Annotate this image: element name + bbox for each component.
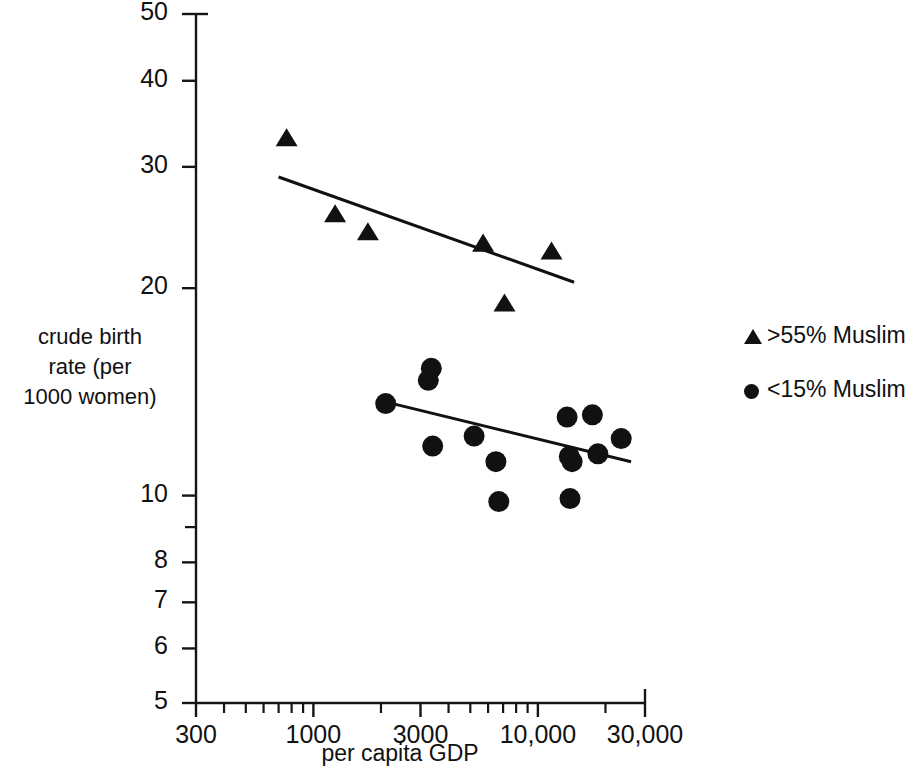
data-point-circle-6	[488, 491, 509, 512]
data-point-circle-10	[562, 451, 583, 472]
data-point-circle-8	[582, 404, 603, 425]
y-tick-label-50: 50	[86, 0, 168, 26]
data-point-circle-12	[587, 443, 608, 464]
y-axis-title: crude birth rate (per 1000 women)	[4, 322, 176, 412]
data-point-triangle-5	[494, 293, 516, 311]
x-axis-title: per capita GDP	[250, 740, 550, 767]
y-tick-label-40: 40	[86, 64, 168, 93]
data-point-circle-0	[375, 393, 396, 414]
data-point-triangle-4	[541, 242, 563, 260]
y-tick-label-20: 20	[86, 271, 168, 300]
scatter-chart-figure: 504030201087653001000300010,00030,000 cr…	[0, 0, 912, 776]
data-point-circle-5	[485, 451, 506, 472]
data-point-circle-7	[557, 407, 578, 428]
y-tick-label-8: 8	[86, 545, 168, 574]
data-point-circle-4	[464, 426, 485, 447]
legend-item-muslim-low: <15% Muslim	[742, 376, 906, 403]
data-points	[276, 128, 632, 512]
y-axis-title-line-2: rate (per	[4, 352, 176, 382]
axes-lines	[196, 14, 645, 703]
data-point-triangle-3	[472, 234, 494, 252]
triangle-marker-icon	[742, 325, 764, 347]
data-point-circle-13	[611, 428, 632, 449]
x-tick-label-30,000: 30,000	[575, 720, 715, 749]
data-point-circle-3	[422, 436, 443, 457]
y-axis-title-line-3: 1000 women)	[4, 382, 176, 412]
y-tick-label-6: 6	[86, 631, 168, 660]
data-point-triangle-2	[357, 222, 379, 240]
circle-marker-icon	[742, 379, 764, 401]
legend-label-muslim-low: <15% Muslim	[767, 376, 906, 403]
data-point-triangle-0	[276, 128, 298, 146]
y-tick-label-10: 10	[86, 479, 168, 508]
data-point-triangle-1	[324, 204, 346, 222]
axis-ticks	[182, 14, 645, 717]
data-point-circle-2	[418, 370, 439, 391]
y-tick-label-7: 7	[86, 585, 168, 614]
legend-label-muslim-high: >55% Muslim	[767, 322, 906, 349]
y-axis-title-line-1: crude birth	[4, 322, 176, 352]
y-tick-label-5: 5	[86, 686, 168, 715]
legend-item-muslim-high: >55% Muslim	[742, 322, 906, 349]
data-point-circle-11	[560, 488, 581, 509]
y-tick-label-30: 30	[86, 150, 168, 179]
trendline-series-0	[279, 177, 575, 282]
